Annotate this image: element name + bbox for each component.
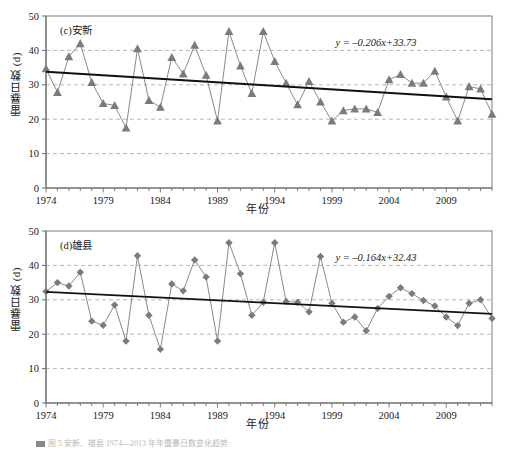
y-axis-label-c: 雷暴日数 (d) xyxy=(8,52,24,116)
y-tick-label: 30 xyxy=(29,79,40,90)
caption-text: 图 5 安新、雄县 1974—2013 年年雷暴日数变化趋势 xyxy=(48,439,228,448)
x-tick-label: 1999 xyxy=(321,410,342,421)
y-tick-label: 40 xyxy=(29,260,40,271)
x-tick-label: 2004 xyxy=(379,410,401,421)
y-tick-label: 10 xyxy=(29,148,40,159)
y-tick-label: 40 xyxy=(29,45,40,56)
y-tick-label: 10 xyxy=(29,363,40,374)
figure-caption: 图 5 安新、雄县 1974—2013 年年雷暴日数变化趋势 xyxy=(36,437,476,448)
chart-panel-c: 0102030405019741979198419891994199920042… xyxy=(0,0,508,215)
x-tick-label: 2009 xyxy=(436,410,457,421)
x-axis-label-d: 年份 xyxy=(246,415,269,431)
plot-area-c: 0102030405019741979198419891994199920042… xyxy=(0,0,508,215)
x-tick-label: 1999 xyxy=(321,195,342,206)
x-tick-label: 1989 xyxy=(207,410,228,421)
y-tick-label: 0 xyxy=(34,398,39,409)
y-tick-label: 20 xyxy=(29,329,40,340)
x-tick-label: 2004 xyxy=(379,195,401,206)
y-axis-label-d: 雷暴日数 (d) xyxy=(8,267,24,331)
plot-border xyxy=(46,16,492,188)
caption-marker-icon xyxy=(36,441,45,447)
figure-container: 0102030405019741979198419891994199920042… xyxy=(0,0,508,450)
x-tick-label: 1974 xyxy=(36,410,58,421)
y-tick-label: 50 xyxy=(29,226,40,237)
panel-label: (d)雄县 xyxy=(60,239,92,252)
plot-area-d: 0102030405019741979198419891994199920042… xyxy=(0,215,508,430)
x-tick-label: 1989 xyxy=(207,195,228,206)
y-tick-label: 20 xyxy=(29,114,40,125)
y-tick-label: 50 xyxy=(29,11,40,22)
x-tick-label: 1984 xyxy=(150,410,172,421)
plot-border xyxy=(46,231,492,403)
x-tick-label: 1974 xyxy=(36,195,58,206)
trend-equation-label: y = –0.164x+32.43 xyxy=(334,252,416,263)
x-tick-label: 1984 xyxy=(150,195,172,206)
chart-panel-d: 0102030405019741979198419891994199920042… xyxy=(0,215,508,430)
panel-label: (c)安新 xyxy=(60,24,93,37)
x-tick-label: 1979 xyxy=(93,195,114,206)
x-tick-label: 2009 xyxy=(436,195,457,206)
x-tick-label: 1979 xyxy=(93,410,114,421)
trend-equation-label: y = –0.206x+33.73 xyxy=(334,37,416,48)
x-axis-label-c: 年份 xyxy=(246,200,269,216)
y-tick-label: 0 xyxy=(34,183,39,194)
y-tick-label: 30 xyxy=(29,294,40,305)
